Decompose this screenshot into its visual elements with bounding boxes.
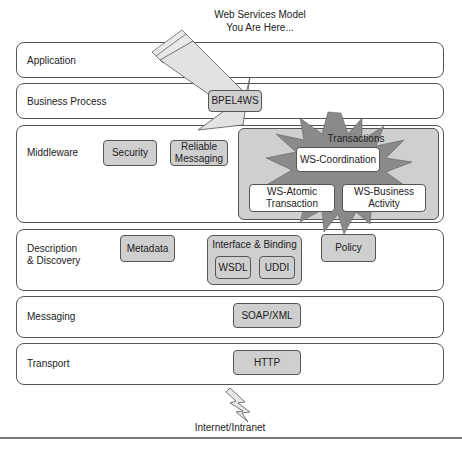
diagram-title: Web Services Model You Are Here... (180, 8, 340, 34)
layer-label-description-discovery: Description & Discovery (27, 243, 80, 267)
lightning-bolt-icon (226, 388, 250, 422)
ws-coordination-box[interactable]: WS-Coordination (296, 147, 380, 172)
layer-label-middleware: Middleware (27, 147, 78, 159)
uddi-box[interactable]: UDDI (259, 256, 295, 279)
layer-label-application: Application (27, 55, 76, 67)
layer-label-messaging: Messaging (27, 311, 75, 323)
soap-xml-box[interactable]: SOAP/XML (233, 303, 301, 328)
ws-coordination-label: WS-Coordination (300, 154, 376, 166)
layer-label-transport: Transport (27, 358, 69, 370)
policy-box[interactable]: Policy (321, 234, 376, 262)
reliable-messaging-label-1: Reliable (181, 141, 217, 153)
ws-atomic-label-1: WS-Atomic (267, 186, 317, 198)
http-box[interactable]: HTTP (233, 350, 301, 375)
layer-label-line-1: Description (27, 243, 80, 255)
layer-application: Application (16, 42, 444, 78)
ws-business-label-2: Activity (368, 198, 400, 210)
network-label: Internet/Intranet (180, 422, 280, 433)
ws-business-activity-box[interactable]: WS-Business Activity (342, 184, 426, 212)
metadata-label: Metadata (127, 243, 169, 255)
bpel4ws-box[interactable]: BPEL4WS (208, 90, 262, 112)
http-label: HTTP (254, 357, 280, 369)
layer-label-business-process: Business Process (27, 96, 106, 108)
wsdl-label: WSDL (219, 262, 248, 274)
bpel4ws-label: BPEL4WS (211, 95, 258, 107)
bottom-divider (0, 437, 462, 439)
soap-xml-label: SOAP/XML (241, 310, 292, 322)
layer-transport: Transport (16, 343, 444, 385)
title-line-2: You Are Here... (180, 21, 340, 34)
ws-atomic-label-2: Transaction (266, 198, 318, 210)
security-box[interactable]: Security (103, 140, 157, 166)
ws-atomic-transaction-box[interactable]: WS-Atomic Transaction (249, 184, 335, 212)
metadata-box[interactable]: Metadata (120, 235, 175, 262)
layer-label-line-2: & Discovery (27, 255, 80, 267)
interface-binding-label: Interface & Binding (208, 239, 301, 250)
uddi-label: UDDI (265, 262, 289, 274)
reliable-messaging-box[interactable]: Reliable Messaging (170, 140, 228, 166)
policy-label: Policy (335, 242, 362, 254)
wsdl-box[interactable]: WSDL (215, 256, 251, 279)
security-label: Security (112, 147, 148, 159)
title-line-1: Web Services Model (180, 8, 340, 21)
reliable-messaging-label-2: Messaging (175, 153, 223, 165)
layer-messaging: Messaging (16, 296, 444, 338)
transactions-label: Transactions (316, 133, 396, 144)
ws-business-label-1: WS-Business (354, 186, 414, 198)
